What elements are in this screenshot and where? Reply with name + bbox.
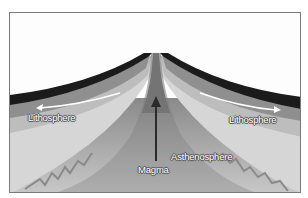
asthenosphere-label: Asthenosphere [171,151,232,162]
magma-label: Magma [138,164,169,175]
lithosphere-right-label: Lithosphere [229,114,276,125]
diagram-frame: Lithosphere Lithosphere Asthenosphere Ma… [9,12,301,193]
lithosphere-left-label: Lithosphere [28,112,75,123]
